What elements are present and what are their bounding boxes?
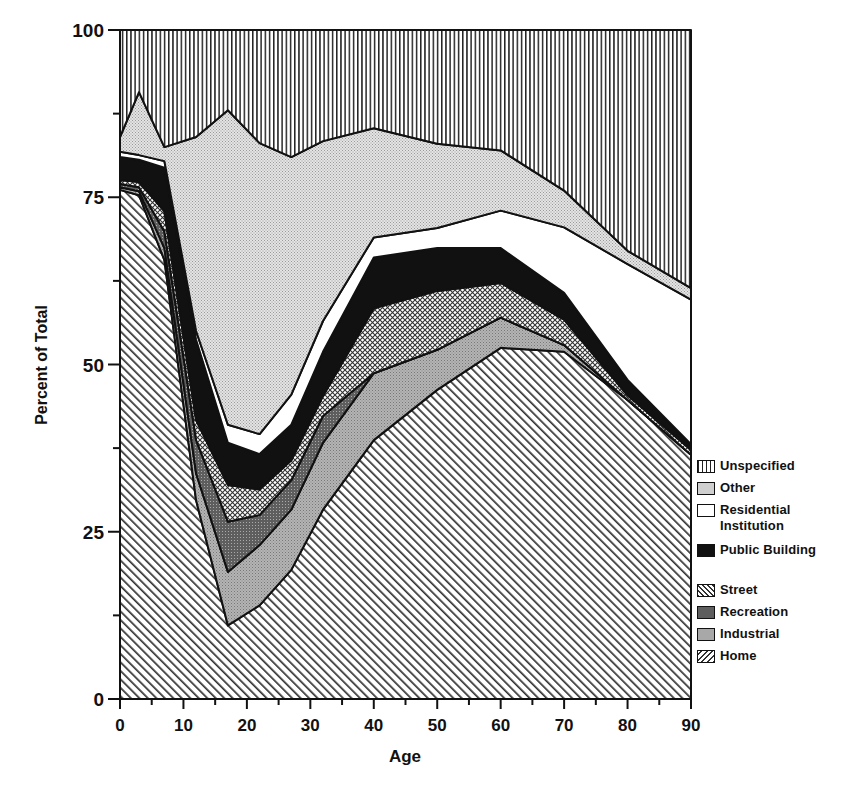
area-layers bbox=[120, 30, 691, 699]
legend-item-residential-institution: Residential Institution bbox=[697, 502, 840, 540]
legend-item-other: Other bbox=[697, 480, 840, 500]
legend-label: Other bbox=[720, 480, 840, 496]
legend-swatch-crosshatch-icon bbox=[697, 584, 715, 597]
x-axis-title: Age bbox=[389, 747, 421, 767]
legend-swatch-white-icon bbox=[697, 504, 715, 517]
y-axis-title: Percent of Total bbox=[33, 305, 51, 425]
x-tick-label: 70 bbox=[555, 716, 574, 735]
legend-swatch-diagonal-icon bbox=[697, 650, 715, 663]
legend-item-street: Street bbox=[697, 582, 840, 602]
chart: 02550751000102030405060708090 Percent of… bbox=[0, 0, 841, 789]
legend-label: Public Building bbox=[720, 542, 840, 558]
legend-swatch-vlines-icon bbox=[697, 460, 715, 473]
legend-swatch-medium-dots-icon bbox=[697, 628, 715, 641]
legend-label: Recreation bbox=[720, 604, 840, 620]
legend-label: Industrial bbox=[720, 626, 840, 642]
x-tick-label: 50 bbox=[428, 716, 447, 735]
x-tick-label: 90 bbox=[682, 716, 701, 735]
legend-label: Residential Institution bbox=[720, 502, 840, 534]
y-tick-label: 100 bbox=[72, 20, 104, 41]
legend-label: Unspecified bbox=[720, 458, 840, 474]
legend-swatch-black-icon bbox=[697, 544, 715, 557]
x-tick-label: 10 bbox=[174, 716, 193, 735]
stacked-area-plot: 02550751000102030405060708090 bbox=[0, 0, 841, 789]
x-tick-label: 40 bbox=[364, 716, 383, 735]
legend-item-home: Home bbox=[697, 648, 840, 668]
y-tick-label: 50 bbox=[83, 355, 104, 376]
x-tick-label: 20 bbox=[237, 716, 256, 735]
x-tick-label: 80 bbox=[618, 716, 637, 735]
y-tick-label: 75 bbox=[83, 187, 105, 208]
legend-swatch-dark-dots-icon bbox=[697, 606, 715, 619]
legend-label: Home bbox=[720, 648, 840, 664]
legend-item-industrial: Industrial bbox=[697, 626, 840, 646]
legend: Unspecified Other Residential Institutio… bbox=[697, 458, 840, 670]
legend-label: Street bbox=[720, 582, 840, 598]
legend-item-public-building: Public Building bbox=[697, 542, 840, 580]
legend-item-recreation: Recreation bbox=[697, 604, 840, 624]
x-tick-label: 60 bbox=[491, 716, 510, 735]
legend-item-unspecified: Unspecified bbox=[697, 458, 840, 478]
x-tick-label: 30 bbox=[301, 716, 320, 735]
x-tick-label: 0 bbox=[115, 716, 124, 735]
y-tick-label: 25 bbox=[83, 522, 105, 543]
legend-swatch-fine-dots-icon bbox=[697, 482, 715, 495]
y-tick-label: 0 bbox=[93, 689, 104, 710]
